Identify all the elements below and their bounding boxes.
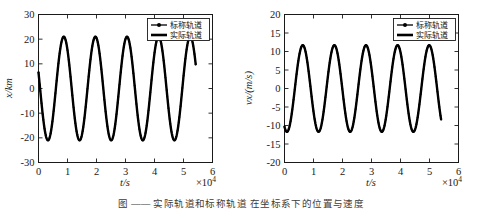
nominal-orbit-marker: [421, 78, 423, 80]
nominal-orbit-marker: [326, 86, 328, 88]
nominal-orbit-marker: [186, 49, 188, 51]
nominal-orbit-marker: [143, 137, 145, 139]
nominal-orbit-marker: [97, 44, 99, 46]
nominal-orbit-marker: [308, 75, 310, 77]
nominal-orbit-marker: [341, 88, 343, 90]
nominal-orbit-marker: [375, 101, 377, 103]
nominal-orbit-marker: [169, 118, 171, 120]
nominal-orbit-marker: [38, 78, 40, 80]
nominal-orbit-marker: [84, 112, 86, 114]
nominal-orbit-marker: [152, 62, 154, 64]
nominal-orbit-marker: [119, 77, 121, 79]
chart-panel-velocity: 0123456-20-15-10-505101520 vx/(m/s) t/s …: [241, 0, 482, 196]
nominal-orbit-marker: [353, 117, 355, 119]
nominal-orbit-marker: [293, 94, 295, 96]
nominal-orbit-marker: [53, 110, 55, 112]
nominal-orbit-marker: [431, 51, 433, 53]
nominal-orbit-marker: [408, 112, 410, 114]
nominal-orbit-marker: [181, 87, 183, 89]
nominal-orbit-marker: [376, 114, 378, 116]
x-tick-label: 3: [369, 166, 374, 177]
y-tick-label: 30: [24, 9, 35, 20]
nominal-orbit-marker: [39, 90, 41, 92]
nominal-orbit-marker: [426, 47, 428, 49]
nominal-orbit-marker: [284, 126, 286, 128]
nominal-orbit-marker: [135, 97, 137, 99]
nominal-orbit-marker: [289, 124, 291, 126]
nominal-orbit-marker: [303, 46, 305, 48]
y-tick-label: -20: [267, 157, 281, 168]
nominal-orbit-marker: [433, 62, 435, 64]
nominal-orbit-marker: [171, 131, 173, 133]
x-axis-exponent-power-left: 4: [212, 175, 216, 184]
nominal-orbit-marker: [361, 56, 363, 58]
nominal-orbit-marker: [129, 47, 131, 49]
nominal-orbit-marker: [70, 82, 72, 84]
y-tick-label: 5: [275, 65, 280, 76]
nominal-orbit-marker: [66, 45, 68, 47]
nominal-orbit-marker: [48, 137, 50, 139]
nominal-orbit-marker: [309, 85, 311, 87]
nominal-orbit-marker: [345, 116, 347, 118]
y-tick-label: 10: [24, 58, 35, 69]
nominal-orbit-marker: [102, 86, 104, 88]
nominal-orbit-marker: [117, 102, 119, 104]
nominal-orbit-marker: [65, 42, 67, 44]
nominal-orbit-marker: [374, 96, 376, 98]
nominal-orbit-marker: [145, 132, 147, 134]
nominal-orbit-marker: [417, 112, 419, 114]
x-tick-label: 0: [282, 166, 287, 177]
position-chart-svg: 0123456-30-20-100102030 x/km t/s ×104 标称…: [0, 0, 241, 196]
nominal-orbit-marker: [122, 50, 124, 52]
nominal-orbit-marker: [290, 120, 292, 122]
nominal-orbit-marker: [306, 61, 308, 63]
nominal-orbit-marker: [436, 86, 438, 88]
nominal-orbit-marker: [288, 128, 290, 130]
nominal-orbit-marker: [166, 95, 168, 97]
nominal-orbit-marker: [121, 60, 123, 62]
nominal-orbit-marker: [323, 106, 325, 108]
nominal-orbit-marker: [435, 75, 437, 77]
nominal-orbit-marker: [315, 127, 317, 129]
nominal-orbit-marker: [177, 126, 179, 128]
nominal-orbit-marker: [162, 54, 164, 56]
nominal-orbit-marker: [343, 103, 345, 105]
nominal-orbit-marker: [296, 73, 298, 75]
nominal-orbit-marker: [421, 83, 423, 85]
nominal-orbit-marker: [391, 66, 393, 68]
nominal-orbit-marker: [406, 103, 408, 105]
nominal-orbit-marker: [358, 78, 360, 80]
nominal-orbit-marker: [137, 114, 139, 116]
nominal-orbit-marker: [163, 59, 165, 61]
nominal-orbit-marker: [104, 105, 106, 107]
nominal-orbit-marker: [71, 94, 73, 96]
nominal-orbit-marker: [292, 104, 294, 106]
nominal-orbit-marker: [394, 51, 396, 53]
nominal-orbit-marker: [400, 52, 402, 54]
nominal-orbit-marker: [291, 108, 293, 110]
nominal-orbit-marker: [328, 66, 330, 68]
nominal-orbit-marker: [420, 88, 422, 90]
nominal-orbit-marker: [114, 128, 116, 130]
nominal-orbit-marker: [390, 76, 392, 78]
nominal-orbit-marker: [50, 129, 52, 131]
y-tick-label: -10: [21, 108, 35, 119]
nominal-orbit-marker: [184, 63, 186, 65]
nominal-orbit-marker: [82, 130, 84, 132]
nominal-orbit-marker: [423, 64, 425, 66]
legend-right[interactable]: 标称轨道 实际轨道: [394, 19, 456, 41]
nominal-orbit-marker: [139, 132, 141, 134]
nominal-orbit-marker: [385, 118, 387, 120]
nominal-orbit-marker: [80, 136, 82, 138]
nominal-orbit-marker: [352, 123, 354, 125]
nominal-orbit-marker: [426, 50, 428, 52]
legend-left[interactable]: 标称轨道 实际轨道: [148, 19, 210, 41]
nominal-orbit-marker: [192, 45, 194, 47]
nominal-orbit-marker: [59, 52, 61, 54]
nominal-orbit-marker: [146, 120, 148, 122]
nominal-orbit-marker: [161, 46, 163, 48]
nominal-orbit-marker: [165, 77, 167, 79]
nominal-orbit-marker: [415, 123, 417, 125]
nominal-orbit-marker: [71, 88, 73, 90]
nominal-orbit-marker: [375, 106, 377, 108]
